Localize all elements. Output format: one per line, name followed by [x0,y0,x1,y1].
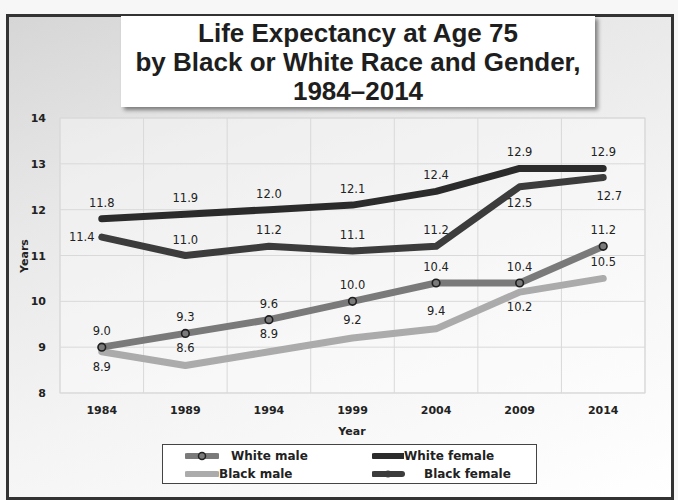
legend-item-white-female: White female [372,448,494,464]
x-tick-label: 2004 [421,404,452,417]
y-axis-ticks: 891011121314 [31,112,47,400]
y-tick-label: 8 [38,387,46,400]
legend-label: White female [404,449,494,463]
data-point-marker [599,243,607,251]
legend-label: White male [231,449,308,463]
data-label: 8.9 [93,360,111,374]
data-label: 10.4 [423,260,449,274]
y-tick-label: 13 [31,158,46,171]
x-axis-title: Year [337,425,366,438]
data-point-marker [516,279,524,287]
black-male-swatch-icon [185,469,219,479]
legend-label: Black female [424,467,511,481]
y-tick-label: 12 [31,204,46,217]
x-tick-label: 1994 [254,404,285,417]
y-tick-label: 9 [38,341,46,354]
data-label: 10.4 [507,260,533,274]
data-label: 9.4 [427,304,445,318]
data-label: 11.8 [89,196,115,210]
y-tick-label: 10 [31,295,47,308]
data-label: 11.4 [69,230,95,244]
data-point-marker [182,330,190,338]
grid-lines [60,118,645,393]
data-point-marker [432,279,440,287]
x-tick-label: 2009 [504,404,535,417]
data-label: 10.2 [507,300,533,314]
data-label: 11.0 [173,233,199,247]
data-label: 10.5 [590,255,616,269]
x-tick-label: 1999 [337,404,368,417]
legend-label: Black male [219,467,292,481]
data-label: 9.2 [343,313,361,327]
black-female-swatch-icon [372,469,406,479]
data-point-marker [349,298,357,306]
data-point-marker [265,316,273,324]
data-label: 10.0 [340,278,366,292]
y-tick-label: 14 [31,112,47,125]
legend: White male Black male White female Black… [162,444,537,484]
data-label: 8.9 [260,327,278,341]
data-label: 12.9 [590,145,616,159]
data-label: 11.9 [173,191,199,205]
data-label: 9.6 [260,297,278,311]
data-label: 12.1 [340,182,366,196]
x-tick-label: 2014 [588,404,619,417]
legend-item-black-male: Black male [185,466,292,482]
data-label: 12.0 [256,187,282,201]
y-axis-title: Years [18,239,31,274]
data-label: 11.2 [256,223,282,237]
legend-item-black-female: Black female [372,466,511,482]
data-label: 12.7 [596,189,622,203]
data-point-marker [98,343,106,351]
legend-item-white-male: White male [185,448,308,464]
x-tick-label: 1984 [86,404,117,417]
y-tick-label: 11 [31,250,46,263]
data-label: 12.5 [507,196,533,210]
data-label: 11.2 [590,223,616,237]
data-label: 11.2 [423,223,449,237]
white-female-swatch-icon [372,451,404,461]
data-label: 12.9 [507,145,533,159]
data-label: 11.1 [340,228,366,242]
data-label: 12.4 [423,168,449,182]
data-label: 9.3 [176,310,194,324]
data-label: 8.6 [176,341,194,355]
x-tick-label: 1989 [170,404,201,417]
x-axis-ticks: 1984198919941999200420092014 [86,404,618,417]
data-label: 9.0 [93,324,111,338]
white-male-swatch-icon [185,451,219,461]
